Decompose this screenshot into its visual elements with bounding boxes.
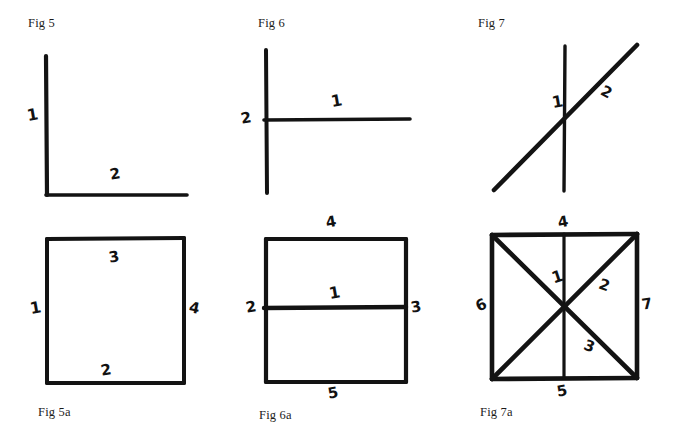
figure-fig6: Fig 6 2 1 [230, 0, 460, 215]
figure-fig7a: 4 1 2 6 7 3 5 Fig 7a [460, 215, 681, 435]
figure-caption-fig7a: Fig 7a [480, 405, 513, 420]
figure-drawing-fig7a [460, 215, 681, 415]
middle-horizontal-line [264, 307, 406, 308]
segment-vertical [46, 56, 47, 195]
figure-drawing-fig7 [460, 0, 681, 215]
figure-caption-fig6a: Fig 6a [259, 408, 292, 423]
segment-horizontal [264, 119, 410, 120]
figure-fig5: Fig 5 1 2 [0, 0, 230, 215]
figure-drawing-fig6 [230, 0, 460, 215]
square-top-side [47, 238, 184, 239]
figure-drawing-fig6a [230, 215, 460, 415]
figure-sheet: Fig 5 1 2 Fig 6 2 1 Fig 7 1 2 [0, 0, 681, 435]
figure-fig5a: 1 2 3 4 Fig 5a [0, 215, 230, 435]
figure-caption-fig5a: Fig 5a [38, 405, 71, 420]
figure-fig7: Fig 7 1 2 [460, 0, 681, 215]
figure-fig6a: 4 2 1 3 5 Fig 6a [230, 215, 460, 435]
